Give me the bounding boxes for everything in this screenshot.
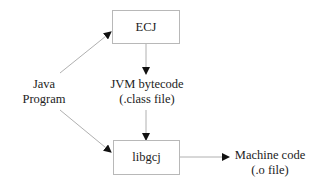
- machine-code-line2: (.o file): [230, 163, 310, 178]
- machine-code-line1: Machine code: [230, 148, 310, 163]
- compilation-flow-diagram: ECJ libgcj Java Program JVM bytecode (.c…: [0, 0, 312, 188]
- edge-java-to-ecj: [60, 32, 111, 73]
- libgcj-label: libgcj: [132, 150, 160, 165]
- java-program-label: Java Program: [14, 77, 74, 107]
- java-program-line1: Java: [14, 77, 74, 92]
- libgcj-node: libgcj: [113, 140, 180, 175]
- ecj-label: ECJ: [136, 20, 157, 35]
- ecj-node: ECJ: [112, 10, 180, 44]
- java-program-line2: Program: [14, 92, 74, 107]
- edge-java-to-libgcj: [60, 110, 111, 152]
- bytecode-label: JVM bytecode (.class file): [106, 77, 188, 107]
- bytecode-line1: JVM bytecode: [106, 77, 188, 92]
- machine-code-label: Machine code (.o file): [230, 148, 310, 178]
- bytecode-line2: (.class file): [106, 92, 188, 107]
